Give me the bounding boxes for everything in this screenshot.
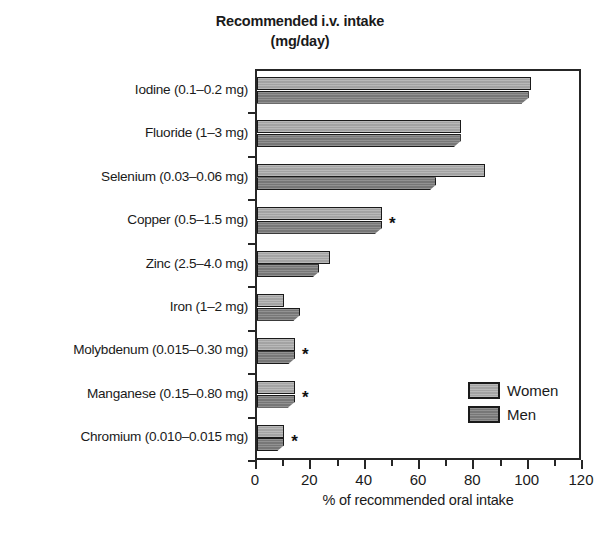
y-axis-tick	[248, 286, 257, 288]
bar-men	[257, 438, 284, 451]
chart-title: Recommended i.v. intake (mg/day)	[150, 12, 450, 51]
x-axis-tick-major	[581, 460, 583, 469]
y-axis-label: Copper (0.5–1.5 mg)	[3, 212, 248, 227]
bar-group	[257, 158, 579, 201]
x-axis-tick-major	[364, 460, 366, 469]
x-axis: 020406080100120	[255, 460, 581, 461]
chart-legend: WomenMen	[468, 378, 572, 426]
y-axis-label: Zinc (2.5–4.0 mg)	[3, 256, 248, 271]
bar-women	[257, 251, 330, 264]
y-axis-label: Molybdenum (0.015–0.30 mg)	[3, 342, 248, 357]
legend-swatch-icon	[468, 406, 500, 423]
bar-men	[257, 264, 319, 277]
chart-figure: Recommended i.v. intake (mg/day) Iodine …	[0, 0, 608, 535]
x-axis-tick-label: 60	[410, 471, 427, 488]
significance-asterisk: *	[389, 215, 396, 232]
x-axis-tick-minor	[391, 460, 393, 466]
bar-men	[257, 134, 461, 147]
legend-label: Women	[507, 382, 558, 399]
legend-label: Men	[507, 406, 536, 423]
significance-asterisk: *	[291, 433, 298, 450]
x-axis-tick-label: 80	[464, 471, 481, 488]
y-axis-label: Selenium (0.03–0.06 mg)	[3, 169, 248, 184]
y-axis-tick	[248, 373, 257, 375]
bar-group	[257, 71, 579, 114]
bar-women	[257, 338, 295, 351]
significance-asterisk: *	[302, 389, 309, 406]
x-axis-tick-label: 0	[251, 471, 259, 488]
x-axis-tick-label: 40	[355, 471, 372, 488]
bar-men	[257, 395, 295, 408]
x-axis-tick-label: 20	[301, 471, 318, 488]
x-axis-tick-major	[472, 460, 474, 469]
y-axis-tick	[248, 112, 257, 114]
x-axis-tick-major	[309, 460, 311, 469]
chart-title-line1: Recommended i.v. intake	[216, 13, 384, 29]
x-axis-tick-major	[255, 460, 257, 469]
bar-men	[257, 351, 295, 364]
y-axis-label: Manganese (0.15–0.80 mg)	[3, 386, 248, 401]
y-axis-tick	[248, 330, 257, 332]
x-axis-tick-major	[418, 460, 420, 469]
x-axis-tick-label: 120	[568, 471, 593, 488]
x-axis-tick-major	[527, 460, 529, 469]
x-axis-tick-minor	[500, 460, 502, 466]
bar-women	[257, 207, 382, 220]
y-axis-tick	[248, 199, 257, 201]
y-axis-labels: Iodine (0.1–0.2 mg)Fluoride (1–3 mg)Sele…	[0, 69, 248, 460]
bar-women	[257, 381, 295, 394]
bar-men	[257, 91, 529, 104]
bar-group	[257, 288, 579, 331]
bar-men	[257, 177, 436, 190]
x-axis-tick-minor	[337, 460, 339, 466]
y-axis-label: Chromium (0.010–0.015 mg)	[3, 429, 248, 444]
legend-swatch-icon	[468, 382, 500, 399]
bar-men	[257, 308, 300, 321]
chart-title-line2: (mg/day)	[150, 32, 450, 52]
x-axis-tick-minor	[554, 460, 556, 466]
x-axis-title: % of recommended oral intake	[255, 492, 581, 508]
x-axis-tick-minor	[445, 460, 447, 466]
y-axis-tick	[248, 417, 257, 419]
bar-group: *	[257, 201, 579, 244]
x-axis-tick-minor	[282, 460, 284, 466]
bar-group	[257, 245, 579, 288]
bar-group	[257, 114, 579, 157]
significance-asterisk: *	[302, 346, 309, 363]
legend-item: Women	[468, 378, 572, 402]
legend-item: Men	[468, 402, 572, 426]
bar-women	[257, 164, 485, 177]
y-axis-tick	[248, 156, 257, 158]
bar-women	[257, 294, 284, 307]
y-axis-tick	[248, 243, 257, 245]
y-axis-label: Iodine (0.1–0.2 mg)	[3, 82, 248, 97]
y-axis-label: Iron (1–2 mg)	[3, 299, 248, 314]
bar-women	[257, 77, 531, 90]
x-axis-tick-label: 100	[514, 471, 539, 488]
bar-women	[257, 425, 284, 438]
bar-women	[257, 120, 461, 133]
bar-group: *	[257, 332, 579, 375]
bar-men	[257, 221, 382, 234]
y-axis-label: Fluoride (1–3 mg)	[3, 125, 248, 140]
